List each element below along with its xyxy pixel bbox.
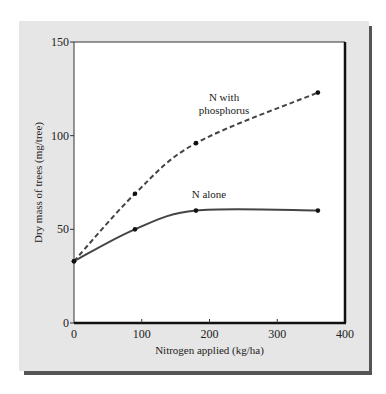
plot-area bbox=[74, 42, 345, 323]
series-label-n-with-phosphorus: N with bbox=[209, 91, 240, 103]
y-tick-label: 150 bbox=[51, 35, 69, 49]
chart: 0501001500100200300400Nitrogen applied (… bbox=[0, 0, 386, 394]
y-tick-label: 50 bbox=[57, 222, 69, 236]
data-point bbox=[133, 191, 138, 196]
x-tick-label: 0 bbox=[71, 327, 77, 341]
x-tick-label: 400 bbox=[336, 327, 354, 341]
data-point bbox=[133, 227, 138, 232]
x-tick-label: 200 bbox=[201, 327, 219, 341]
data-point bbox=[316, 90, 321, 95]
data-point bbox=[72, 259, 77, 264]
series-label-n-alone: N alone bbox=[192, 188, 227, 200]
data-point bbox=[194, 208, 199, 213]
data-point bbox=[316, 208, 321, 213]
y-axis-title: Dry mass of trees (mg/tree) bbox=[32, 122, 45, 243]
data-point bbox=[194, 141, 199, 146]
series-label-n-with-phosphorus: phosphorus bbox=[199, 104, 250, 116]
y-tick-label: 0 bbox=[63, 316, 69, 330]
y-tick-label: 100 bbox=[51, 129, 69, 143]
x-axis-title: Nitrogen applied (kg/ha) bbox=[155, 344, 264, 357]
x-tick-label: 100 bbox=[133, 327, 151, 341]
x-tick-label: 300 bbox=[268, 327, 286, 341]
